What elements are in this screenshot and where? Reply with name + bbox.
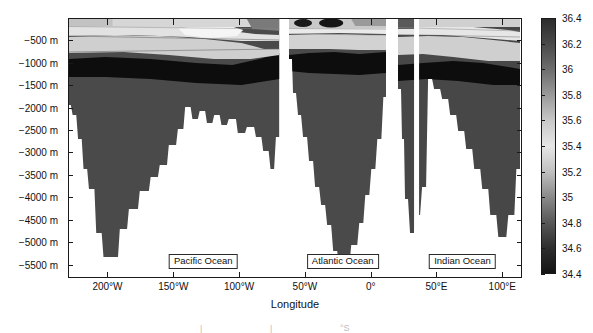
colorbar-tick-label: 35.8: [562, 89, 581, 100]
x-axis-tick-label: 50°E: [426, 281, 448, 292]
y-axis-tick-mark-right: [517, 130, 522, 131]
y-axis-tick-label: −4000 m: [19, 192, 58, 203]
y-axis-tick-label: −2000 m: [19, 102, 58, 113]
colorbar-tick-label: 35.6: [562, 115, 581, 126]
colorbar-tick-mark: [541, 44, 545, 45]
colorbar-tick-label: 35.2: [562, 166, 581, 177]
pacific-salinity-field: [69, 19, 280, 277]
y-axis-tick-mark: [68, 85, 73, 86]
y-axis-tick-label: −3500 m: [19, 169, 58, 180]
y-axis-tick-mark-right: [517, 40, 522, 41]
x-axis-tick-mark: [502, 272, 503, 278]
x-axis-title: Longitude: [271, 298, 319, 310]
x-axis-tick-mark-top: [305, 19, 306, 25]
plot-clip: Pacific Ocean Atlantic Ocean Indian Ocea…: [69, 19, 521, 277]
indian-land-gap: [414, 19, 419, 277]
y-axis-tick-label: −1500 m: [19, 80, 58, 91]
colorbar-tick-label: 34.8: [562, 217, 581, 228]
plot-area: Pacific Ocean Atlantic Ocean Indian Ocea…: [68, 18, 522, 278]
salinity-section-figure: −500 m−1000 m−1500 m−2000 m−2500 m−3000 …: [0, 0, 593, 333]
y-axis-tick-label: −500 m: [24, 35, 58, 46]
y-axis-tick-label: −5000 m: [19, 237, 58, 248]
panel-pacific-ocean: [69, 19, 280, 277]
x-axis-tick-label: 150°W: [158, 281, 188, 292]
x-axis-tick-mark: [173, 272, 174, 278]
colorbar-tick-mark: [541, 248, 545, 249]
y-axis-tick-mark: [68, 108, 73, 109]
x-axis-tick-mark: [305, 272, 306, 278]
y-axis-tick-mark: [68, 242, 73, 243]
x-axis-tick-mark-top: [107, 19, 108, 25]
x-axis-tick-mark-top: [173, 19, 174, 25]
y-axis-tick-mark-right: [517, 152, 522, 153]
colorbar-tick-label: 34.6: [562, 243, 581, 254]
y-axis-tick-mark-right: [517, 197, 522, 198]
x-axis-tick-mark-top: [239, 19, 240, 25]
y-axis-tick-label: −5500 m: [19, 259, 58, 270]
x-axis-tick-mark-top: [371, 19, 372, 25]
colorbar-tick-label: 35: [562, 192, 573, 203]
colorbar-tick-mark: [541, 223, 545, 224]
x-axis-tick-label: 200°W: [92, 281, 122, 292]
y-axis-tick-label: −1000 m: [19, 57, 58, 68]
atlantic-water-column: [289, 19, 386, 277]
x-axis-tick-label: 100°E: [489, 281, 516, 292]
x-axis-tick-mark: [436, 272, 437, 278]
x-axis-tick-label: 50°W: [293, 281, 318, 292]
cropped-figure-artifact: | | °S: [0, 324, 593, 333]
y-axis-tick-mark-right: [517, 220, 522, 221]
y-axis-tick-mark-right: [517, 242, 522, 243]
colorbar-tick-mark: [541, 197, 545, 198]
x-axis-tick-mark-top: [502, 19, 503, 25]
colorbar-tick-label: 36.2: [562, 38, 581, 49]
colorbar-tick-label: 34.4: [562, 269, 581, 280]
atlantic-salinity-field: [289, 19, 386, 277]
colorbar-tick-mark: [541, 120, 545, 121]
x-axis-tick-label: 0°: [366, 281, 376, 292]
y-axis-tick-mark-right: [517, 108, 522, 109]
x-axis-tick-mark-top: [436, 19, 437, 25]
y-axis-tick-mark: [68, 63, 73, 64]
panel-indian-ocean: [398, 19, 520, 277]
y-axis-tick-mark-right: [517, 63, 522, 64]
colorbar-tick-mark: [541, 274, 545, 275]
y-axis-tick-label: −2500 m: [19, 125, 58, 136]
colorbar-tick-mark: [541, 18, 545, 19]
y-axis-tick-labels: −500 m−1000 m−1500 m−2000 m−2500 m−3000 …: [0, 0, 66, 333]
y-axis-tick-mark: [68, 40, 73, 41]
colorbar-tick-mark: [541, 146, 545, 147]
x-axis-tick-mark: [107, 272, 108, 278]
y-axis-tick-label: −4500 m: [19, 214, 58, 225]
colorbar-tick-mark: [541, 69, 545, 70]
y-axis-tick-label: −3000 m: [19, 147, 58, 158]
y-axis-tick-mark: [68, 175, 73, 176]
colorbar-tick-mark: [541, 95, 545, 96]
x-axis-tick-mark: [239, 272, 240, 278]
y-axis-tick-mark-right: [517, 265, 522, 266]
basin-label-indian: Indian Ocean: [429, 254, 496, 269]
pacific-water-column: [69, 19, 280, 277]
y-axis-tick-mark: [68, 152, 73, 153]
y-axis-tick-mark-right: [517, 85, 522, 86]
y-axis-tick-mark-right: [517, 175, 522, 176]
x-axis-tick-label: 100°W: [224, 281, 254, 292]
colorbar-tick-label: 36.4: [562, 13, 581, 24]
colorbar-tick-mark: [541, 172, 545, 173]
basin-label-pacific: Pacific Ocean: [169, 254, 238, 269]
y-axis-tick-mark: [68, 220, 73, 221]
y-axis-tick-mark: [68, 265, 73, 266]
colorbar-tick-label: 36: [562, 64, 573, 75]
indian-salinity-field: [398, 19, 520, 277]
panel-atlantic-ocean: [289, 19, 386, 277]
x-axis-tick-mark: [371, 272, 372, 278]
basin-label-atlantic: Atlantic Ocean: [307, 254, 379, 269]
colorbar-tick-label: 35.4: [562, 141, 581, 152]
y-axis-tick-mark: [68, 130, 73, 131]
y-axis-tick-mark: [68, 197, 73, 198]
